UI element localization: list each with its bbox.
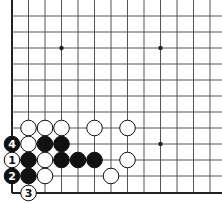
- black-stone: 2: [4, 168, 20, 184]
- stone-body: [87, 152, 103, 168]
- white-stone: [21, 136, 37, 152]
- stone-body: [21, 136, 37, 152]
- move-number-label: 4: [8, 138, 16, 151]
- white-stone: 1: [4, 152, 20, 168]
- stone-body: [21, 168, 37, 184]
- stone-body: [37, 120, 53, 136]
- black-stone: [37, 136, 53, 152]
- go-board: 4123: [0, 0, 222, 203]
- black-stone: [21, 152, 37, 168]
- stone-body: [120, 120, 136, 136]
- stone-body: [37, 136, 53, 152]
- stone-body: [21, 120, 37, 136]
- black-stone: [21, 168, 37, 184]
- black-stone: [54, 152, 70, 168]
- stone-body: [103, 168, 119, 184]
- stone-body: [120, 152, 136, 168]
- white-stone: [37, 168, 53, 184]
- stone-body: [21, 152, 37, 168]
- white-stone: [21, 120, 37, 136]
- white-stone: [87, 120, 103, 136]
- stone-body: [37, 168, 53, 184]
- move-number-label: 3: [25, 187, 33, 200]
- stone-body: [54, 136, 70, 152]
- stone-body: [87, 120, 103, 136]
- stone-body: [54, 120, 70, 136]
- white-stone: [120, 152, 136, 168]
- black-stone: [87, 152, 103, 168]
- hoshi-point: [158, 142, 162, 146]
- black-stone: 4: [4, 136, 20, 152]
- white-stone: [120, 120, 136, 136]
- move-number-label: 1: [8, 154, 16, 167]
- stone-body: [70, 152, 86, 168]
- black-stone: [54, 136, 70, 152]
- black-stone: [70, 152, 86, 168]
- move-number-label: 2: [8, 170, 16, 183]
- hoshi-point: [158, 46, 162, 50]
- white-stone: [37, 120, 53, 136]
- stone-body: [37, 152, 53, 168]
- white-stone: [54, 120, 70, 136]
- white-stone: [103, 168, 119, 184]
- stone-body: [54, 152, 70, 168]
- white-stone: [37, 152, 53, 168]
- hoshi-point: [59, 46, 63, 50]
- white-stone: 3: [21, 185, 37, 201]
